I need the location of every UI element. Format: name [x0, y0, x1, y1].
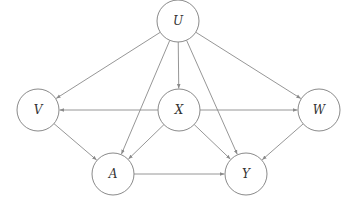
edge-u-to-x [178, 42, 179, 89]
node-label: U [173, 14, 184, 28]
node-label: V [34, 103, 44, 117]
node-u: U [157, 0, 199, 42]
edge-u-to-v [56, 32, 160, 98]
edge-x-to-a [128, 125, 163, 159]
node-w: W [298, 89, 340, 131]
edge-x-to-y [194, 125, 230, 160]
node-label: A [108, 167, 118, 181]
nodes-layer: UVXWAY [17, 0, 340, 195]
node-a: A [92, 153, 134, 195]
node-label: W [313, 103, 327, 117]
node-x: X [158, 89, 200, 131]
node-label: X [174, 103, 184, 117]
node-y: Y [225, 153, 267, 195]
edge-u-to-w [196, 32, 301, 98]
node-v: V [17, 89, 59, 131]
causal-diagram: UVXWAY [0, 0, 356, 205]
edge-v-to-a [54, 124, 97, 160]
edge-w-to-y [262, 124, 303, 160]
node-label: Y [242, 167, 251, 181]
